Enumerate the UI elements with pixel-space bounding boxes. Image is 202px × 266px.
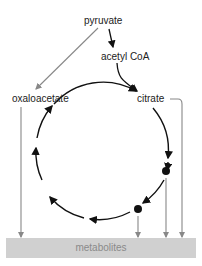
- arrow-pyruvate-oxaloacetate: [36, 28, 98, 89]
- arc-lower-right: [143, 180, 164, 203]
- label-metabolites: metabolites: [6, 242, 196, 253]
- branch-dot-bottom: [134, 205, 142, 213]
- arrow-citrate-metabolites: [170, 99, 182, 237]
- metabolites-bar: metabolites: [6, 238, 196, 258]
- cycle-diagram: [0, 0, 202, 266]
- label-acetyl-coa: acetyl CoA: [101, 51, 149, 62]
- arc-lower-left: [50, 197, 84, 218]
- arc-upper-left: [37, 106, 52, 138]
- branch-dot-right: [162, 167, 170, 175]
- label-oxaloacetate: oxaloacetate: [12, 93, 69, 104]
- label-pyruvate: pyruvate: [84, 15, 122, 26]
- arc-bottom: [90, 212, 130, 220]
- arc-left: [36, 148, 42, 180]
- label-citrate: citrate: [137, 93, 164, 104]
- arc-citrate-down: [153, 108, 168, 158]
- arrow-pyruvate-acetyl: [109, 29, 113, 47]
